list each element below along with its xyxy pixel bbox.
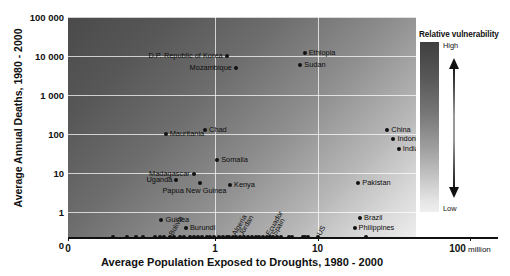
data-point xyxy=(215,158,219,162)
plot-area: D.P. Republic of KoreaEthiopiaMozambique… xyxy=(68,17,416,237)
data-point xyxy=(397,147,401,151)
data-point xyxy=(203,128,207,132)
point-label: Mauritania xyxy=(170,130,205,138)
data-point xyxy=(298,63,302,67)
point-label: Brazil xyxy=(364,214,382,222)
gridline-horizontal xyxy=(68,56,416,57)
gridline-horizontal xyxy=(68,134,416,135)
y-tick-label: 10 xyxy=(53,168,64,179)
x-tick xyxy=(318,237,319,241)
data-point xyxy=(353,226,357,230)
x-axis-unit: million xyxy=(466,245,491,254)
point-label: Uganda xyxy=(146,176,172,184)
vulnerability-gradient-bar xyxy=(420,42,439,212)
gridline-horizontal xyxy=(68,95,416,96)
x-axis-line xyxy=(68,237,498,239)
point-label: Burundi xyxy=(190,224,215,232)
point-label: Mozambique xyxy=(190,64,232,72)
point-label: Kenya xyxy=(234,181,255,189)
x-tick-label: 0 xyxy=(65,243,71,254)
data-point xyxy=(228,183,232,187)
y-tick-label: 1 xyxy=(59,207,64,218)
drought-vulnerability-scatter-chart: Average Annual Deaths, 1980 - 2000 100 0… xyxy=(0,0,510,276)
data-point xyxy=(225,54,229,58)
point-label: China xyxy=(391,126,410,134)
data-point xyxy=(385,128,389,132)
point-label: Pakistan xyxy=(362,179,390,187)
gridline-horizontal xyxy=(68,17,416,18)
data-point xyxy=(164,132,168,136)
y-tick-label: 100 xyxy=(48,129,64,140)
x-tick xyxy=(68,237,69,241)
point-label: Papua New Guinea xyxy=(162,187,226,195)
point-label: D.P. Republic of Korea xyxy=(148,52,222,60)
legend-title: Relative vulnerability xyxy=(419,30,507,39)
y-tick-label: 0 xyxy=(59,240,64,251)
point-label: Somalia xyxy=(221,156,248,164)
point-label: Chad xyxy=(209,126,227,134)
point-label: Indonesia xyxy=(397,135,416,143)
data-point xyxy=(184,226,188,230)
x-tick-label: 1 xyxy=(212,243,218,254)
x-axis-title: Average Population Exposed to Droughts, … xyxy=(68,256,416,268)
legend-high-label: High xyxy=(443,41,458,50)
data-point xyxy=(358,216,362,220)
y-tick-label: 1 000 xyxy=(40,90,64,101)
data-point xyxy=(174,178,178,182)
gridline-horizontal xyxy=(68,173,416,174)
data-point xyxy=(356,181,360,185)
data-point xyxy=(159,218,163,222)
legend: Relative vulnerability High Low xyxy=(419,30,507,39)
y-tick-label: 100 000 xyxy=(30,12,64,23)
x-tick-label: 10 xyxy=(312,243,323,254)
x-tick-label: 100 million xyxy=(449,243,491,254)
point-label: Ethiopia xyxy=(309,49,336,57)
point-label: Philippines xyxy=(359,224,395,232)
y-axis-title: Average Annual Deaths, 1980 - 2000 xyxy=(12,8,24,228)
y-tick-label: 10 000 xyxy=(35,51,64,62)
data-point xyxy=(198,181,202,185)
point-label: Sudan xyxy=(304,61,325,69)
x-tick xyxy=(215,237,216,241)
data-point xyxy=(192,172,196,176)
legend-low-label: Low xyxy=(443,204,457,213)
data-point xyxy=(303,51,307,55)
data-point xyxy=(391,137,395,141)
x-tick xyxy=(470,237,471,241)
data-point xyxy=(234,66,238,70)
double-headed-vertical-arrow-icon xyxy=(448,58,460,198)
point-label: India xyxy=(403,145,416,153)
